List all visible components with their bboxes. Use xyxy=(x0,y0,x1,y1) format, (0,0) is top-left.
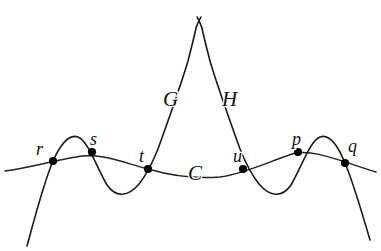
curve-label-c: C xyxy=(188,161,203,185)
point-label-p: p xyxy=(290,129,301,149)
point-label-q: q xyxy=(348,136,357,156)
intersection-dot-q xyxy=(341,159,349,167)
intersection-dot-s xyxy=(88,148,96,156)
figure-background xyxy=(0,0,381,251)
intersection-dot-t xyxy=(144,165,152,173)
point-label-u: u xyxy=(233,146,242,166)
figure-canvas: G H C r s t u p q xyxy=(0,0,381,251)
point-label-r: r xyxy=(36,139,44,159)
curve-diagram: G H C r s t u p q xyxy=(0,0,381,251)
curve-label-g: G xyxy=(163,87,178,111)
point-label-s: s xyxy=(90,129,97,149)
intersection-dot-r xyxy=(49,157,57,165)
intersection-dot-u xyxy=(239,165,247,173)
intersection-dot-p xyxy=(294,148,302,156)
curve-label-h: H xyxy=(221,87,239,111)
